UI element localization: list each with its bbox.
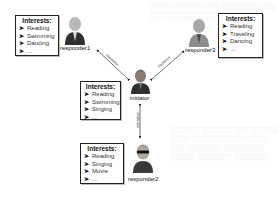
arrow-bullet-icon: ➤ (84, 106, 89, 112)
responder3-person-icon (188, 17, 210, 47)
arrow-bullet-icon: ➤ (222, 31, 227, 37)
arrow-bullet-icon: ➤ (84, 168, 89, 174)
arrow-bullet-icon: ➤ (222, 23, 227, 29)
arrow-bullet-icon: ➤ (84, 99, 89, 105)
interest-item: ➤... (84, 114, 117, 122)
interest-item: ➤Dancing (222, 38, 259, 46)
arrow-bullet-icon: ➤ (84, 176, 89, 182)
responder3-label: responder3 (185, 47, 215, 53)
initiator-label: initiator (130, 95, 149, 101)
responder2-person-icon (132, 143, 154, 173)
interest-item: ➤... (84, 176, 120, 184)
interest-item: ➤Reading (84, 153, 120, 161)
interests-title: Interests: (84, 83, 117, 91)
interest-item: ➤Reading (222, 23, 259, 31)
arrow-bullet-icon: ➤ (84, 91, 89, 97)
interest-item: ➤... (222, 46, 259, 54)
interest-item: ➤Movie (84, 168, 120, 176)
responder2-interests-box: Interests: ➤Reading ➤Singing ➤Movie ➤... (80, 143, 124, 184)
interest-item: ➤Reading (19, 25, 55, 33)
arrow-bullet-icon: ➤ (84, 161, 89, 167)
responder3-interests-box: Interests: ➤Reading ➤Traveling ➤Dancing … (218, 13, 263, 58)
arrow-bullet-icon: ➤ (84, 114, 89, 120)
interests-title: Interests: (19, 17, 55, 25)
interests-title: Interests: (84, 145, 120, 153)
responder1-interests-box: Interests: ➤Reading ➤Swimming ➤Dancing ➤… (15, 15, 59, 56)
arrow-bullet-icon: ➤ (19, 48, 24, 54)
interest-item: ➤Reading (84, 91, 117, 99)
responder2-label: responder2 (128, 176, 158, 182)
arrow-bullet-icon: ➤ (84, 153, 89, 159)
interest-item: ➤Swimming (19, 33, 55, 41)
interest-item: ➤Swimming (84, 99, 117, 107)
arrow-bullet-icon: ➤ (19, 25, 24, 31)
initiator-person-icon (130, 68, 151, 94)
arrow-bullet-icon: ➤ (222, 38, 227, 44)
arrow-bullet-icon: ➤ (19, 40, 24, 46)
interest-item: ➤... (19, 48, 55, 56)
arrow-bullet-icon: ➤ (19, 33, 24, 39)
interests-title: Interests: (222, 15, 259, 23)
interest-item: ➤Singing (84, 161, 120, 169)
arrow-bullet-icon: ➤ (222, 46, 227, 52)
edge-label-responder2: interaction (136, 112, 140, 128)
interest-item: ➤Dancing (19, 40, 55, 48)
initiator-interests-box: Interests: ➤Reading ➤Swimming ➤Singing ➤… (80, 81, 121, 120)
interest-item: ➤Singing (84, 106, 117, 114)
responder1-label: responder1 (60, 45, 90, 51)
responder1-person-icon (64, 15, 86, 45)
interest-item: ➤Traveling (222, 31, 259, 39)
